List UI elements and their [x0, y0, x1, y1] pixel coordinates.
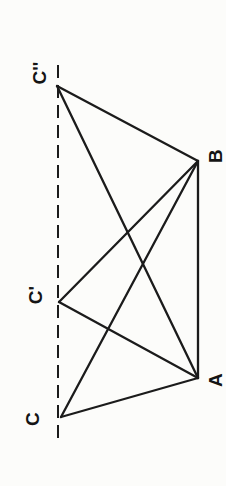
geometry-diagram: C''C'CBA [0, 0, 226, 486]
vertex-label-B: B [205, 149, 226, 163]
vertex-label-C: C [22, 412, 43, 426]
edge-Cp-B [59, 161, 198, 302]
edge-Cp-A [59, 302, 198, 378]
vertex-label-A: A [205, 373, 226, 387]
vertex-label-Cp: C' [25, 286, 46, 304]
vertex-label-Cpp: C'' [29, 62, 50, 85]
edge-Cpp-B [57, 86, 198, 161]
figure-canvas: C''C'CBA [0, 0, 226, 486]
edge-C-B [61, 161, 198, 417]
edge-C-A [61, 378, 198, 417]
